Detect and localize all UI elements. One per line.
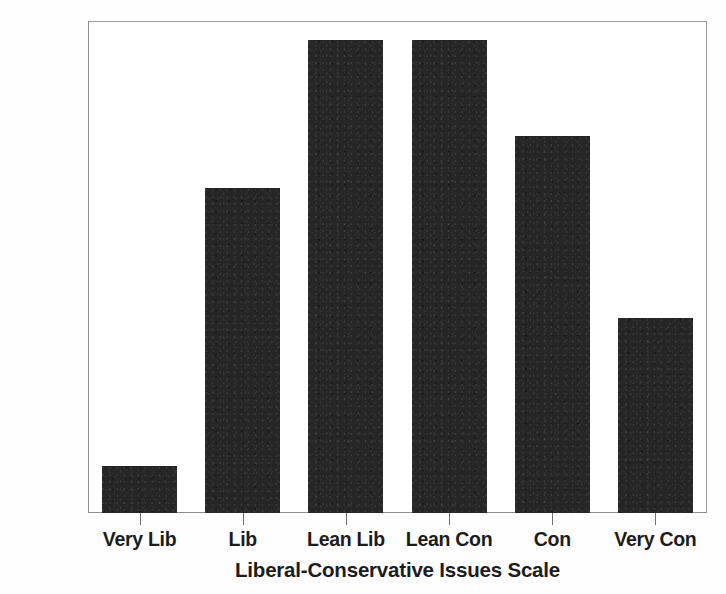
- y-axis: 25.0%20.0%15.0%10.0%5.0%0.0%: [0, 0, 88, 594]
- x-axis-tick-mark: [552, 513, 553, 525]
- bar-lean-con: [412, 40, 487, 513]
- x-axis-title: Liberal-Conservative Issues Scale: [88, 558, 707, 582]
- bar-lean-lib: [308, 40, 383, 513]
- bar-lib: [205, 188, 280, 513]
- x-axis-tick-label: Lean Lib: [307, 528, 385, 551]
- x-axis-tick-mark: [243, 513, 244, 525]
- x-axis: Liberal-Conservative Issues Scale Very L…: [88, 513, 707, 594]
- bars-container: [88, 21, 707, 513]
- bar-very-lib: [102, 466, 177, 513]
- x-axis-tick-label: Very Lib: [103, 528, 176, 551]
- x-axis-tick-label: Very Con: [614, 528, 696, 551]
- x-axis-tick-label: Lib: [229, 528, 257, 551]
- x-axis-tick-mark: [140, 513, 141, 525]
- x-axis-tick-label: Con: [534, 528, 571, 551]
- x-axis-tick-label: Lean Con: [406, 528, 492, 551]
- bar-chart-figure: 25.0%20.0%15.0%10.0%5.0%0.0% Liberal-Con…: [0, 0, 726, 594]
- bar-con: [515, 136, 590, 513]
- bar-very-con: [618, 318, 693, 513]
- x-axis-tick-mark: [655, 513, 656, 525]
- x-axis-tick-mark: [449, 513, 450, 525]
- x-axis-tick-mark: [346, 513, 347, 525]
